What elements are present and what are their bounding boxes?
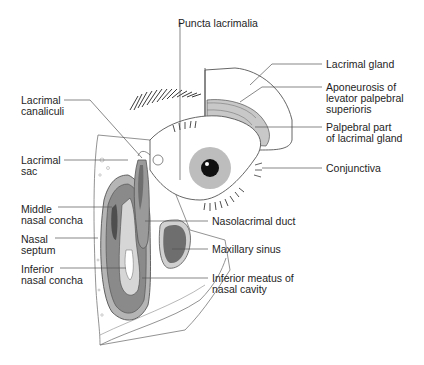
label-nasolacrimal-duct: Nasolacrimal duct	[212, 216, 295, 227]
lacrimal-apparatus-illustration	[0, 0, 424, 365]
pupil	[201, 159, 219, 177]
label-lacrimal-sac: Lacrimal sac	[21, 155, 61, 177]
label-aponeurosis: Aponeurosis of levator palpebral superio…	[326, 82, 404, 115]
label-conjunctiva: Conjunctiva	[326, 163, 381, 174]
label-lacrimal-gland: Lacrimal gland	[326, 59, 394, 70]
label-nasal-septum: Nasal septum	[21, 234, 55, 256]
label-middle-nasal-concha: Middle nasal concha	[21, 204, 83, 226]
label-maxillary-sinus: Maxillary sinus	[212, 244, 281, 255]
label-inferior-nasal-concha: Inferior nasal concha	[21, 264, 83, 286]
diagram-canvas: Puncta lacrimalia Lacrimal gland Aponeur…	[0, 0, 424, 365]
label-inferior-meatus: Inferior meatus of nasal cavity	[212, 273, 294, 295]
label-palpebral-part: Palpebral part of lacrimal gland	[326, 122, 402, 144]
eyebrow	[130, 89, 201, 110]
label-puncta-lacrimalia: Puncta lacrimalia	[178, 18, 258, 29]
label-lacrimal-canaliculi: Lacrimal canaliculi	[21, 95, 64, 117]
